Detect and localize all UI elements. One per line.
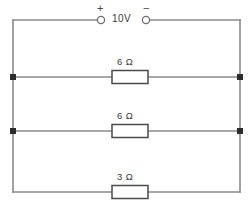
junction-dot-left-branch-2 [10,128,16,134]
resistor-1-label: 6 Ω [117,57,133,67]
resistor-1-body [112,71,148,84]
resistor-2-label: 6 Ω [117,111,133,121]
source-voltage-label: 10V [112,14,131,24]
junction-dot-right-branch-2 [237,128,243,134]
positive-terminal-icon [97,16,104,23]
junction-dot-right-branch-1 [237,74,243,80]
minus-sign-label: − [143,3,149,14]
plus-sign-label: + [97,3,103,14]
circuit-diagram-canvas: + 10V − 6 Ω 6 Ω 3 Ω [0,0,252,208]
junction-dot-left-branch-1 [10,74,16,80]
resistor-3-body [112,186,148,199]
negative-terminal-icon [142,16,149,23]
resistor-3-label: 3 Ω [117,172,133,182]
resistor-2-body [112,125,148,138]
